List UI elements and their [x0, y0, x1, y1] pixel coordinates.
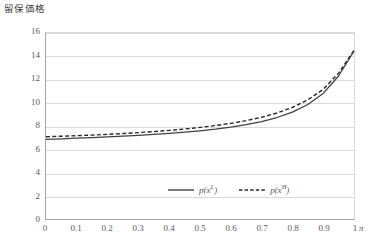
- chart-legend: p(xL)p(xH): [168, 183, 289, 197]
- y-axis-tick-label: 10: [0, 98, 40, 107]
- legend-label: p(xL): [199, 186, 217, 195]
- y-axis-tick-label: 16: [0, 27, 40, 36]
- legend-entry: p(xL): [168, 183, 217, 197]
- legend-dashed-line-icon: [239, 186, 265, 194]
- y-axis-tick-label: 2: [0, 192, 40, 201]
- legend-solid-line-icon: [168, 186, 194, 194]
- y-axis-tick-label: 12: [0, 74, 40, 83]
- y-axis-tick-label: 6: [0, 145, 40, 154]
- x-axis-unit-label: π: [359, 223, 364, 233]
- y-axis-tick-label: 14: [0, 51, 40, 60]
- x-axis-tick-labels: 00.10.20.30.40.50.60.70.80.91: [45, 223, 355, 239]
- legend-entry: p(xH): [239, 183, 289, 197]
- series-line: [46, 50, 354, 136]
- reservation-price-chart: 留保価格 0246810121416 00.10.20.30.40.50.60.…: [0, 0, 373, 250]
- chart-title: 留保価格: [4, 3, 45, 15]
- series-line: [46, 51, 354, 139]
- y-axis-tick-labels: 0246810121416: [0, 32, 40, 220]
- x-axis-tick-label: 1: [335, 223, 373, 233]
- y-axis-tick-label: 4: [0, 168, 40, 177]
- y-axis-tick-label: 8: [0, 121, 40, 130]
- legend-label: p(xH): [270, 186, 289, 195]
